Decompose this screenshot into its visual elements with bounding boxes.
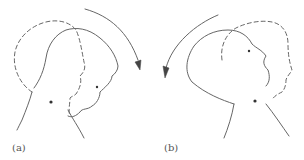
panel-b-neck-back xyxy=(224,104,234,138)
panel-b-solid-head-outline xyxy=(187,30,269,104)
panel-a-label: (a) xyxy=(12,143,26,153)
panel-a-arrow-head-icon xyxy=(135,60,141,70)
panel-b xyxy=(163,15,292,138)
panel-a xyxy=(14,9,141,138)
panel-a-solid-head-outline xyxy=(34,29,118,117)
head-rotation-figure: (a) (b) xyxy=(0,0,304,160)
panel-a-neck-back xyxy=(17,92,32,130)
panel-a-rotation-arrow xyxy=(85,9,138,60)
panel-b-dashed-head-outline xyxy=(222,21,292,100)
panel-a-neck-front xyxy=(68,110,84,138)
panel-a-pivot-dot xyxy=(49,100,52,103)
panel-a-eye-dot xyxy=(96,86,98,88)
panel-b-eye-dot xyxy=(248,50,250,52)
panel-b-label: (b) xyxy=(164,143,178,153)
panel-b-pivot-dot xyxy=(253,99,256,102)
panel-b-arrow-head-icon xyxy=(163,66,169,78)
panel-b-neck-front xyxy=(266,104,289,136)
diagram-canvas xyxy=(0,0,304,160)
panel-b-rotation-arrow xyxy=(166,15,218,68)
